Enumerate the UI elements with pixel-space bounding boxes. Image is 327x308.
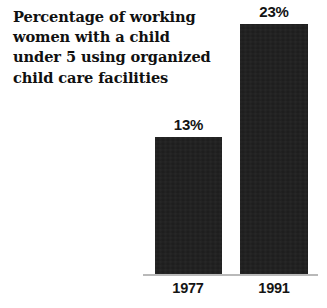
x-axis-tick-label-1977: 1977	[152, 280, 224, 296]
x-axis-line	[143, 274, 318, 276]
bar-1977	[155, 137, 222, 274]
bar-chart-figure: Percentage of working women with a child…	[0, 0, 327, 308]
x-axis-tick-label-1991: 1991	[238, 280, 310, 296]
plot-area: 23% 13% 1977 1991	[0, 0, 327, 308]
bar-value-label-1977: 13%	[155, 116, 222, 133]
bar-value-label-1991: 23%	[240, 3, 308, 20]
bar-1991	[240, 24, 308, 274]
